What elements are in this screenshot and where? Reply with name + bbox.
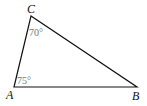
angle-label-c: 70° <box>29 27 43 38</box>
vertex-label-c: C <box>27 2 36 16</box>
angle-label-a: 75° <box>17 75 31 86</box>
triangle-diagram: C A B 70° 75° <box>0 0 147 106</box>
vertex-label-a: A <box>5 88 14 102</box>
vertex-label-b: B <box>132 89 140 103</box>
